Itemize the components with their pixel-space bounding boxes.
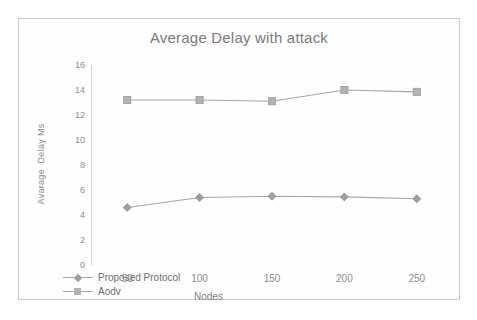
y-axis-tick-label: 16 [75,60,85,70]
y-axis-tick-label: 12 [75,110,85,120]
chart-legend: Proposed ProtocolAodv [63,271,180,299]
y-axis-tick-label: 10 [75,135,85,145]
data-point-marker [123,204,131,212]
square-marker-icon [63,286,93,297]
data-point-marker [413,195,421,203]
data-point-marker [196,194,204,202]
chart-container: Average Delay with attack Avarage Delay … [18,18,460,300]
y-axis-tick-label: 2 [80,235,85,245]
data-point-marker [413,88,420,95]
y-axis-tick-label: 14 [75,85,85,95]
legend-item-label: Proposed Protocol [98,272,180,283]
data-point-marker [124,96,131,103]
plot-area: 1614121086420 50100150200250 [91,65,453,265]
legend-item[interactable]: Proposed Protocol [63,271,180,284]
y-axis-tick-label: 6 [80,185,85,195]
data-point-marker [341,86,348,93]
data-point-marker [340,193,348,201]
data-series-layer [91,65,453,265]
x-axis-tick-label: 150 [264,273,281,284]
data-point-marker [268,98,275,105]
data-point-marker [196,96,203,103]
y-axis-title: Avarage Delay Ms [36,104,46,224]
y-axis-tick-label: 8 [80,160,85,170]
x-axis-tick-label: 250 [408,273,425,284]
x-axis-tick-label: 100 [191,273,208,284]
legend-item[interactable]: Aodv [63,285,180,298]
y-axis-tick-label: 0 [80,260,85,270]
chart-title: Average Delay with attack [19,29,459,46]
legend-item-label: Aodv [98,286,121,297]
x-axis-title: Nodes [194,291,223,302]
x-axis-tick-label: 200 [336,273,353,284]
data-point-marker [268,192,276,200]
diamond-marker-icon [63,272,93,283]
y-axis-tick-label: 4 [80,210,85,220]
